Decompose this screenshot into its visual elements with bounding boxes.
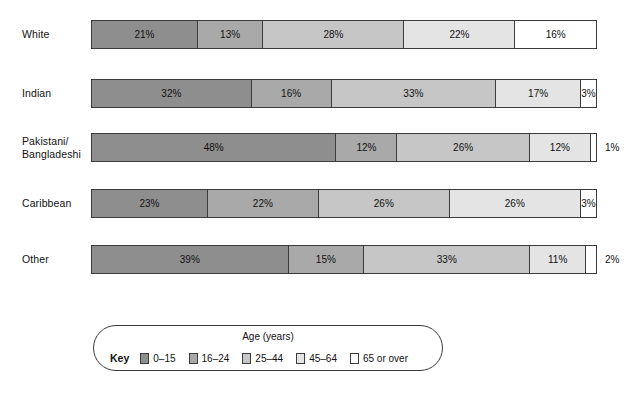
legend-swatch-icon bbox=[189, 353, 198, 364]
bar-segment: 16% bbox=[252, 80, 332, 107]
row-category-label: Other bbox=[22, 245, 86, 274]
bar-segment-value: 26% bbox=[374, 198, 394, 209]
bar-segment: 22% bbox=[208, 190, 319, 217]
legend-item-label: 25–44 bbox=[255, 353, 283, 364]
bar-segment: 13% bbox=[198, 21, 264, 48]
legend-swatch-icon bbox=[140, 353, 149, 364]
bar-segment: 32% bbox=[92, 80, 252, 107]
row-category-label-line: Indian bbox=[22, 87, 86, 100]
legend-item: 65 or over bbox=[350, 353, 408, 364]
bar-segment-value: 32% bbox=[161, 88, 181, 99]
bar-segment: 26% bbox=[397, 134, 529, 161]
bar-segment: 12% bbox=[530, 134, 591, 161]
legend-swatch-icon bbox=[350, 353, 359, 364]
bar-segment: 26% bbox=[319, 190, 450, 217]
row-category-label-line: Other bbox=[22, 253, 86, 266]
chart-row: Pakistani/Bangladeshi48%12%26%12%1% bbox=[0, 133, 642, 162]
bar-segment-value: 15% bbox=[316, 254, 336, 265]
bar-segment-value: 13% bbox=[220, 29, 240, 40]
bar-segment: 21% bbox=[92, 21, 198, 48]
bar-segment: 48% bbox=[92, 134, 336, 161]
bar-segment-value: 39% bbox=[180, 254, 200, 265]
row-category-label-line: Pakistani/ bbox=[22, 135, 86, 148]
bar-segment-value: 28% bbox=[323, 29, 343, 40]
bar-segment-value: 16% bbox=[546, 29, 566, 40]
bar-segment: 33% bbox=[332, 80, 497, 107]
bar-segment-value: 3% bbox=[581, 88, 595, 99]
row-category-label-line: Caribbean bbox=[22, 197, 86, 210]
bar-segment-value: 11% bbox=[548, 254, 567, 265]
legend-item: 16–24 bbox=[189, 353, 230, 364]
chart-row: Other39%15%33%11%2% bbox=[0, 245, 642, 274]
legend-items-row: Key 0–1516–2425–4445–6465 or over bbox=[110, 349, 432, 367]
bar-segment-value: 48% bbox=[204, 142, 224, 153]
row-category-label-line: Bangladeshi bbox=[22, 148, 86, 161]
bar-segment: 28% bbox=[263, 21, 404, 48]
bar-segment: 23% bbox=[92, 190, 208, 217]
bar-segment-value: 26% bbox=[453, 142, 473, 153]
bar-segment-value: 33% bbox=[403, 88, 423, 99]
bar-segment-value: 21% bbox=[134, 29, 154, 40]
legend-item-label: 45–64 bbox=[309, 353, 337, 364]
row-category-label: Indian bbox=[22, 79, 86, 108]
stacked-bar: 21%13%28%22%16% bbox=[91, 20, 597, 49]
row-category-label-line: White bbox=[22, 28, 86, 41]
bar-segment-value: 3% bbox=[581, 198, 595, 209]
bar-segment: 15% bbox=[289, 246, 365, 273]
stacked-bar-chart: White21%13%28%22%16%Indian32%16%33%17%3%… bbox=[0, 0, 642, 394]
legend-swatch-icon bbox=[242, 353, 251, 364]
legend-items: 0–1516–2425–4445–6465 or over bbox=[140, 353, 408, 364]
bar-segment: 26% bbox=[450, 190, 581, 217]
bar-segment-value-outside: 2% bbox=[605, 245, 619, 274]
bar-segment bbox=[586, 246, 596, 273]
bar-segment bbox=[591, 134, 596, 161]
chart-row: White21%13%28%22%16% bbox=[0, 20, 642, 49]
legend-item-label: 16–24 bbox=[202, 353, 230, 364]
stacked-bar: 23%22%26%26%3% bbox=[91, 189, 597, 218]
bar-segment-value-outside: 1% bbox=[605, 133, 619, 162]
bar-segment: 3% bbox=[581, 190, 596, 217]
bar-segment: 3% bbox=[581, 80, 596, 107]
bar-segment-value: 22% bbox=[253, 198, 273, 209]
legend-item: 0–15 bbox=[140, 353, 175, 364]
bar-segment: 22% bbox=[404, 21, 515, 48]
legend-item-label: 65 or over bbox=[363, 353, 408, 364]
bar-segment: 17% bbox=[496, 80, 581, 107]
bar-segment: 12% bbox=[336, 134, 397, 161]
legend-item: 45–64 bbox=[296, 353, 337, 364]
bar-segment: 16% bbox=[515, 21, 596, 48]
bar-segment: 11% bbox=[530, 246, 585, 273]
bar-segment-value: 16% bbox=[281, 88, 301, 99]
bar-segment: 39% bbox=[92, 246, 289, 273]
row-category-label: Caribbean bbox=[22, 189, 86, 218]
bar-segment-value: 26% bbox=[505, 198, 525, 209]
bar-segment-value: 12% bbox=[550, 142, 570, 153]
stacked-bar: 48%12%26%12% bbox=[91, 133, 597, 162]
legend-title: Age (years) bbox=[94, 331, 442, 342]
legend-item: 25–44 bbox=[242, 353, 283, 364]
bar-segment-value: 17% bbox=[528, 88, 548, 99]
chart-row: Caribbean23%22%26%26%3% bbox=[0, 189, 642, 218]
bar-segment-value: 23% bbox=[139, 198, 159, 209]
row-category-label: White bbox=[22, 20, 86, 49]
stacked-bar: 39%15%33%11% bbox=[91, 245, 597, 274]
row-category-label: Pakistani/Bangladeshi bbox=[22, 133, 86, 162]
stacked-bar: 32%16%33%17%3% bbox=[91, 79, 597, 108]
bar-segment-value: 22% bbox=[449, 29, 469, 40]
legend-key-label: Key bbox=[110, 352, 129, 364]
bar-segment: 33% bbox=[364, 246, 530, 273]
chart-legend: Age (years) Key 0–1516–2425–4445–6465 or… bbox=[93, 325, 443, 371]
legend-swatch-icon bbox=[296, 353, 305, 364]
legend-item-label: 0–15 bbox=[153, 353, 175, 364]
bar-segment-value: 12% bbox=[356, 142, 376, 153]
chart-row: Indian32%16%33%17%3% bbox=[0, 79, 642, 108]
bar-segment-value: 33% bbox=[437, 254, 457, 265]
